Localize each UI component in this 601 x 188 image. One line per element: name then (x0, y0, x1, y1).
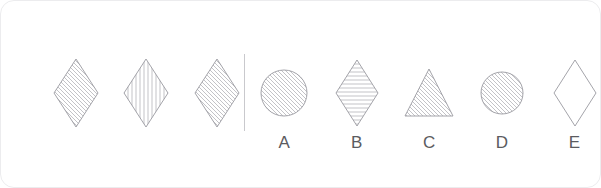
option-c[interactable] (402, 53, 457, 133)
diamond-icon (52, 57, 100, 129)
option-label-c: C (402, 133, 457, 163)
puzzle-card: A B C D E (0, 0, 601, 188)
diamond-icon (122, 57, 170, 129)
prompt-shape-1 (49, 53, 103, 133)
triangle-icon (402, 67, 456, 119)
circle-icon (258, 67, 310, 119)
option-e[interactable] (547, 53, 601, 133)
options-shape-row (245, 53, 601, 133)
option-label-d: D (475, 133, 530, 163)
prompt-shape-3 (190, 53, 244, 133)
prompt-panel (1, 1, 244, 188)
option-b[interactable] (330, 53, 385, 133)
option-a[interactable] (257, 53, 312, 133)
circle-icon (478, 69, 526, 117)
prompt-shape-2 (119, 53, 173, 133)
option-label-e: E (547, 133, 601, 163)
diamond-icon (551, 58, 599, 128)
option-label-a: A (257, 133, 312, 163)
option-label-b: B (330, 133, 385, 163)
diamond-icon (333, 58, 381, 128)
option-d[interactable] (475, 53, 530, 133)
option-labels-row: A B C D E (245, 133, 601, 163)
prompt-shape-row (1, 53, 244, 133)
diamond-icon (193, 57, 241, 129)
